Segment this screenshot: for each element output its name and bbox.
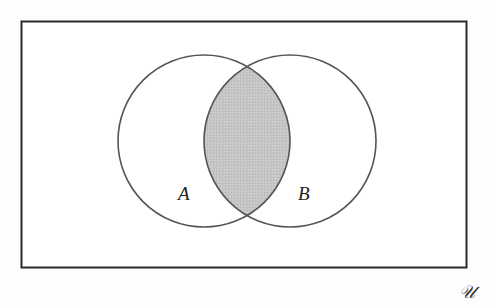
set-b-label: B	[298, 183, 310, 204]
venn-diagram: A B 𝒰	[0, 0, 490, 308]
universe-label: 𝒰	[459, 281, 480, 302]
set-a-label: A	[176, 183, 190, 204]
